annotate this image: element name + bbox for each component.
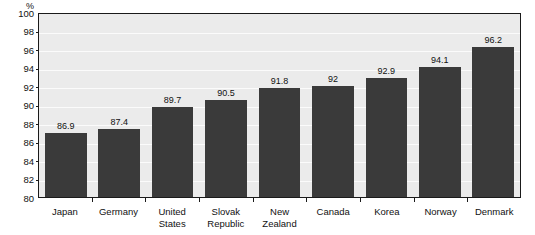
bar-value-label: 86.9: [57, 121, 75, 131]
x-axis-category-label: Norway: [414, 203, 468, 233]
y-axis-tick-label: 86: [0, 138, 34, 147]
y-axis-tick-label: 88: [0, 120, 34, 129]
x-axis-tick-mark: [92, 198, 93, 202]
bar-slot: 96.2: [467, 14, 520, 197]
y-axis-tick-label: 98: [0, 27, 34, 36]
bar-chart: % 10098969492908886848280 86.987.489.790…: [0, 0, 535, 235]
bar-value-label: 92: [328, 74, 338, 84]
bar-value-label: 91.8: [271, 76, 289, 86]
bar-value-label: 90.5: [217, 88, 235, 98]
bar-slot: 92.9: [360, 14, 413, 197]
bar-value-label: 96.2: [484, 35, 502, 45]
x-axis-tick-mark: [199, 198, 200, 202]
y-axis-tick-label: 100: [0, 9, 34, 18]
x-axis-category-label: Denmark: [467, 203, 521, 233]
bar-value-label: 87.4: [110, 117, 128, 127]
y-axis-tick-label: 92: [0, 83, 34, 92]
bar: 87.4: [98, 129, 140, 197]
bar-value-label: 94.1: [431, 55, 449, 65]
bar: 89.7: [152, 107, 194, 197]
x-axis-category-label: Canada: [306, 203, 360, 233]
x-axis-tick-mark: [306, 198, 307, 202]
x-axis-category-label: Korea: [360, 203, 414, 233]
bar: 92: [312, 86, 354, 197]
bar: 96.2: [472, 47, 514, 197]
x-axis-category-label: Japan: [38, 203, 92, 233]
bar-slot: 89.7: [146, 14, 199, 197]
bar: 91.8: [259, 88, 301, 197]
x-axis-tick-mark: [360, 198, 361, 202]
x-axis-category-labels: JapanGermanyUnited StatesSlovak Republic…: [38, 203, 521, 233]
plot-area: 86.987.489.790.591.89292.994.196.2: [38, 13, 521, 198]
x-axis-category-label: United States: [145, 203, 199, 233]
x-axis-tick-mark: [145, 198, 146, 202]
bar-slot: 90.5: [199, 14, 252, 197]
bar: 86.9: [45, 133, 87, 197]
bar: 92.9: [366, 78, 408, 197]
x-axis-tick-mark: [414, 198, 415, 202]
x-axis-tick-mark: [467, 198, 468, 202]
x-axis-tick-mark: [253, 198, 254, 202]
bar-value-label: 89.7: [164, 95, 182, 105]
bar-slot: 91.8: [253, 14, 306, 197]
bar-slot: 94.1: [413, 14, 466, 197]
y-axis-tick-label: 90: [0, 101, 34, 110]
bar-slot: 92: [306, 14, 359, 197]
y-axis-tick-labels: 10098969492908886848280: [0, 13, 34, 198]
y-axis-tick-label: 96: [0, 46, 34, 55]
y-axis-tick-label: 80: [0, 194, 34, 203]
x-axis-category-label: Slovak Republic: [199, 203, 253, 233]
x-axis-category-label: Germany: [92, 203, 146, 233]
bar: 90.5: [205, 100, 247, 197]
bar-slot: 86.9: [39, 14, 92, 197]
y-axis-tick-label: 82: [0, 175, 34, 184]
y-axis-tick-label: 84: [0, 157, 34, 166]
y-axis-tick-label: 94: [0, 64, 34, 73]
bar-series: 86.987.489.790.591.89292.994.196.2: [39, 14, 520, 197]
bar: 94.1: [419, 67, 461, 197]
x-axis-category-label: New Zealand: [253, 203, 307, 233]
bar-slot: 87.4: [92, 14, 145, 197]
bar-value-label: 92.9: [378, 66, 396, 76]
